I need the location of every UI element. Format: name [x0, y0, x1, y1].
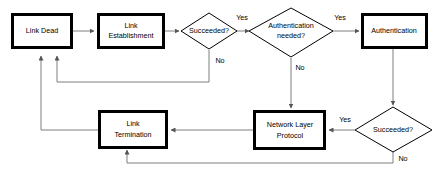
edge-label-succeeded1-yes: Yes — [236, 13, 248, 22]
authentication-needed-label-line2: needed? — [277, 31, 305, 40]
link-establishment-label-line1: Link — [124, 21, 138, 30]
node-succeeded-1[interactable]: Succeeded? — [181, 13, 237, 49]
node-network-layer-protocol[interactable]: Network Layer Protocol — [255, 112, 325, 149]
node-authentication[interactable]: Authentication — [363, 15, 427, 48]
edge-succeeded2-no-to-link-termination — [127, 150, 393, 163]
link-dead-label: Link Dead — [26, 26, 58, 35]
node-link-termination[interactable]: Link Termination — [100, 112, 167, 148]
edge-label-succeeded2-no: No — [398, 154, 407, 163]
flowchart-diagram: Link Dead Link Establishment Succeeded? … — [0, 0, 443, 179]
link-establishment-label-line2: Establishment — [108, 31, 153, 40]
node-succeeded-2[interactable]: Succeeded? — [355, 107, 432, 152]
node-link-establishment[interactable]: Link Establishment — [99, 15, 164, 48]
edge-label-succeeded2-yes: Yes — [339, 115, 351, 124]
authentication-label: Authentication — [371, 26, 417, 35]
flowchart-canvas: Link Dead Link Establishment Succeeded? … — [0, 0, 443, 179]
network-layer-protocol-label-line1: Network Layer — [267, 120, 314, 129]
node-authentication-needed[interactable]: Authentication needed? — [249, 8, 333, 57]
network-layer-protocol-label-line2: Protocol — [277, 131, 304, 140]
node-link-dead[interactable]: Link Dead — [13, 15, 72, 48]
edge-label-succeeded1-no: No — [215, 56, 224, 65]
edge-link-termination-to-link-dead — [41, 56, 98, 130]
succeeded-2-label: Succeeded? — [373, 125, 413, 134]
connector-layer — [41, 31, 393, 163]
link-termination-label-line2: Termination — [114, 130, 151, 139]
edge-label-auth-needed-yes: Yes — [334, 13, 346, 22]
authentication-needed-label-line1: Authentication — [268, 21, 314, 30]
succeeded-1-label: Succeeded? — [189, 26, 229, 35]
edge-succeeded1-no-to-link-dead — [57, 50, 209, 82]
edge-label-auth-needed-no: No — [295, 63, 304, 72]
link-termination-label-line1: Link — [126, 119, 140, 128]
